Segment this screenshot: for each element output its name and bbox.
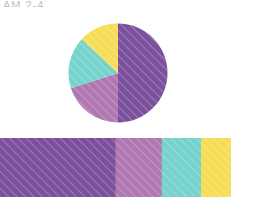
pie-chart [68, 23, 168, 123]
figure-root: AM 2-4 [0, 0, 258, 220]
bar-segment-hatch [201, 138, 231, 197]
stacked-bar-chart [0, 138, 231, 197]
bar-segment-hatch [116, 138, 163, 197]
pie-slice-hatch [118, 24, 168, 123]
bar-segment-hatch [0, 138, 116, 197]
pie-hatch-overlay [69, 24, 168, 123]
clipped-caption-text: AM 2-4 [3, 0, 49, 7]
stacked-bar-svg [0, 138, 231, 197]
bar-segment-hatch [162, 138, 202, 197]
pie-chart-svg [68, 23, 168, 123]
bar-segment-group [0, 138, 231, 197]
